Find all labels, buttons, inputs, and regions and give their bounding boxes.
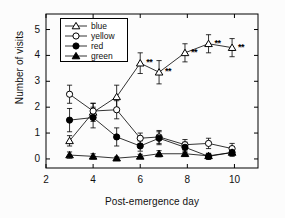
filled-circle-icon xyxy=(64,41,88,51)
y-axis-title: Number of visits xyxy=(14,18,25,118)
legend-item-blue: blue xyxy=(64,21,124,31)
significance-marker: ** xyxy=(191,48,197,57)
chart-figure: Number of visits Post-emergence day 5432… xyxy=(0,0,285,218)
x-tick-label: 10 xyxy=(224,174,244,185)
legend-label: blue xyxy=(88,21,107,31)
y-tick-label: 0 xyxy=(24,153,40,164)
x-tick-label: 8 xyxy=(177,174,197,185)
significance-marker: ** xyxy=(238,43,244,52)
legend-label: green xyxy=(88,51,113,61)
y-tick-label: 4 xyxy=(24,49,40,60)
legend-label: yellow xyxy=(88,31,115,41)
x-axis-title: Post-emergence day xyxy=(46,196,258,207)
x-tick-label: 2 xyxy=(36,174,56,185)
filled-triangle-icon xyxy=(64,51,88,61)
y-tick-label: 5 xyxy=(24,24,40,35)
y-tick-label: 3 xyxy=(24,75,40,86)
open-triangle-icon xyxy=(64,21,88,31)
legend-item-yellow: yellow xyxy=(64,31,124,41)
significance-marker: ** xyxy=(165,67,171,76)
significance-marker: ** xyxy=(146,58,152,67)
x-tick-label: 6 xyxy=(130,174,150,185)
y-tick-label: 1 xyxy=(24,127,40,138)
chart-legend: blue yellow red green xyxy=(60,18,128,62)
x-tick-label: 4 xyxy=(83,174,103,185)
legend-item-red: red xyxy=(64,41,124,51)
y-tick-label: 2 xyxy=(24,101,40,112)
plot-canvas xyxy=(0,0,285,218)
open-circle-icon xyxy=(64,31,88,41)
significance-marker: ** xyxy=(215,39,221,48)
legend-item-green: green xyxy=(64,51,124,61)
legend-label: red xyxy=(88,41,103,51)
